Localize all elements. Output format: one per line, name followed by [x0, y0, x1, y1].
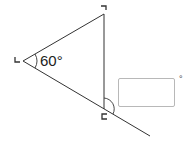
- angle-arc-left: [35, 54, 37, 68]
- angle-label-60: 60°: [40, 52, 63, 70]
- vertex-marker-bottom-icon: [102, 114, 107, 119]
- angle-answer-input[interactable]: [118, 78, 175, 107]
- triangle-diagram: [0, 0, 193, 144]
- degree-suffix: °: [179, 74, 183, 84]
- vertex-marker-left-icon: [15, 57, 20, 62]
- vertex-marker-top-icon: [101, 6, 106, 10]
